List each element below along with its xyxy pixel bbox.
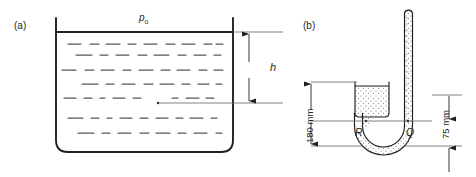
surface-pressure-label: po <box>139 13 148 25</box>
pressure-subscript: o <box>145 18 149 25</box>
point-Q-label: Q <box>406 127 414 138</box>
point-R-label: R <box>355 127 363 138</box>
panel-b-label: (b) <box>303 21 315 31</box>
depth-label-h: h <box>270 62 276 73</box>
fluid-statics-figure <box>0 0 476 177</box>
manometer-reservoir <box>355 82 389 117</box>
dimension-180mm-label: 180 mm <box>305 109 315 143</box>
dimension-75mm-label: 75 mm <box>441 110 451 139</box>
panel-a-label: (a) <box>14 21 26 31</box>
